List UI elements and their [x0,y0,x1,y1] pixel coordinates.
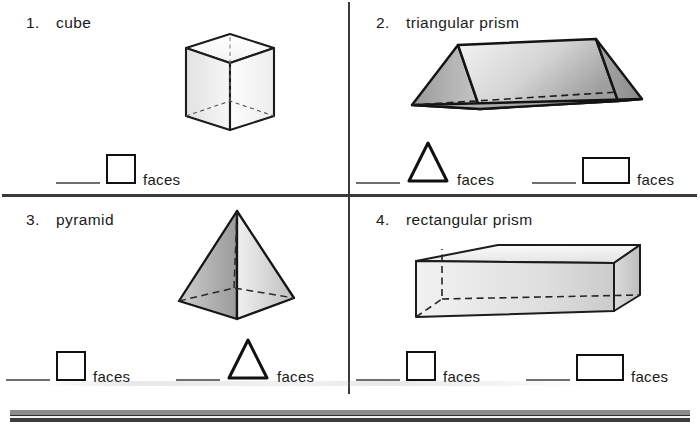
problem-3-heading: 3.pyramid [26,211,114,229]
scan-smudge [40,381,600,386]
footer-decorative-band [10,410,690,422]
triangle-shape-3b [226,337,270,381]
problem-1-cube: 1.cube [0,0,348,194]
problem-3-label: pyramid [56,211,114,228]
problem-1-number: 1. [26,14,56,32]
answer-slot-4b: faces [526,337,668,383]
square-shape-4a [406,351,436,381]
answer-blank-2b[interactable] [532,182,576,184]
rectangle-shape-2b [582,157,630,184]
problem-1-answer-row: faces [0,140,348,186]
triangular-prism-figure [402,33,652,122]
square-shape-3a [56,351,86,381]
problem-4-rectangular-prism: 4.rectangular prism [350,197,698,391]
worksheet-page: 1.cube [0,0,700,430]
rectangle-shape-4b [576,354,624,381]
rectangular-prism-figure [408,235,648,331]
problem-1-heading: 1.cube [26,14,91,32]
pyramid-figure [172,205,302,329]
problem-3-pyramid: 3.pyramid [0,197,348,391]
answer-slot-2b: faces [532,140,674,186]
faces-label-2b: faces [637,172,674,187]
faces-label-4b: faces [631,369,668,384]
answer-blank-2a[interactable] [356,182,400,184]
band-dark-stripe [10,418,690,422]
problem-2-triangular-prism: 2.triangular prism [350,0,698,194]
answer-slot-3a: faces [6,337,130,383]
answer-slot-3b: faces [176,337,314,383]
answer-blank-1a[interactable] [56,182,100,184]
faces-label-2a: faces [457,172,494,187]
problem-4-heading: 4.rectangular prism [376,211,533,229]
answer-slot-1a: faces [56,140,180,186]
problem-4-label: rectangular prism [406,211,533,228]
answer-slot-4a: faces [356,337,480,383]
problem-2-heading: 2.triangular prism [376,14,519,32]
problem-2-number: 2. [376,14,406,32]
answer-slot-2a: faces [356,140,494,186]
problem-3-answer-row: faces faces [0,337,348,383]
problem-3-number: 3. [26,211,56,229]
triangle-shape-2a [406,140,450,184]
faces-label-1a: faces [143,172,180,187]
problem-2-label: triangular prism [406,14,519,31]
problem-4-number: 4. [376,211,406,229]
cube-figure [168,30,288,149]
square-shape-1a [106,154,136,184]
problem-2-answer-row: faces faces [350,140,698,186]
problem-1-label: cube [56,14,91,31]
problem-4-answer-row: faces faces [350,337,698,383]
